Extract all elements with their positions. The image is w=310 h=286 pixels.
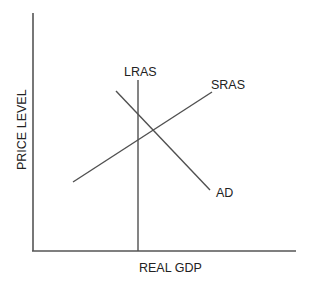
y-axis-label: PRICE LEVEL [15, 89, 29, 170]
x-axis-label: REAL GDP [139, 261, 202, 275]
ad-as-diagram: LRAS SRAS AD REAL GDP PRICE LEVEL [0, 0, 310, 286]
sras-label: SRAS [211, 78, 245, 92]
sras-curve [73, 92, 212, 182]
ad-curve [116, 91, 210, 190]
lras-label: LRAS [124, 65, 157, 79]
ad-label: AD [216, 186, 233, 200]
